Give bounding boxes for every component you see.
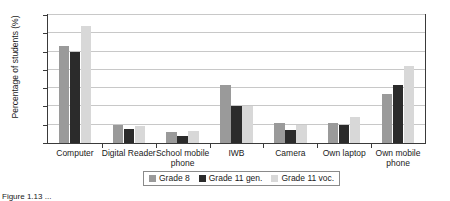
bar bbox=[166, 132, 177, 143]
bar-series-layer bbox=[48, 15, 425, 143]
legend-item: Grade 8 bbox=[149, 174, 190, 183]
bar bbox=[59, 46, 70, 143]
bar-group bbox=[156, 15, 210, 143]
bar bbox=[285, 130, 296, 143]
bar bbox=[70, 52, 81, 143]
y-tick-mark bbox=[43, 15, 47, 16]
y-tick-mark bbox=[43, 88, 47, 89]
bar bbox=[274, 123, 285, 143]
legend-label: Grade 11 gen. bbox=[209, 174, 263, 183]
y-tick-mark bbox=[43, 70, 47, 71]
bar bbox=[404, 66, 415, 143]
y-axis-label: Percentage of students (%) bbox=[10, 0, 20, 137]
bar-group bbox=[210, 15, 264, 143]
bar bbox=[382, 94, 393, 143]
legend-swatch-icon bbox=[149, 175, 156, 182]
y-tick-mark bbox=[43, 52, 47, 53]
bar bbox=[124, 129, 135, 143]
bar bbox=[296, 125, 307, 143]
x-category-label: Own mobile phone bbox=[363, 148, 433, 168]
legend-item: Grade 11 gen. bbox=[199, 174, 263, 183]
bar bbox=[328, 123, 339, 143]
figure-caption: Figure 1.13 ... bbox=[2, 192, 448, 201]
bar-group bbox=[263, 15, 317, 143]
bar-group bbox=[102, 15, 156, 143]
y-tick-mark bbox=[43, 143, 47, 144]
bar bbox=[393, 85, 404, 144]
legend-label: Grade 11 voc. bbox=[281, 174, 334, 183]
bar-group bbox=[371, 15, 425, 143]
legend-item: Grade 11 voc. bbox=[271, 174, 334, 183]
bar bbox=[188, 131, 199, 143]
legend-swatch-icon bbox=[271, 175, 278, 182]
bar bbox=[242, 106, 253, 143]
bar bbox=[220, 85, 231, 144]
bar bbox=[135, 126, 146, 143]
bar bbox=[177, 136, 188, 143]
bar bbox=[113, 125, 124, 143]
y-tick-mark bbox=[43, 106, 47, 107]
chart-figure: Percentage of students (%) 0102030405060… bbox=[0, 0, 450, 201]
bar bbox=[81, 26, 92, 143]
y-tick-mark bbox=[43, 33, 47, 34]
chart-legend: Grade 8Grade 11 gen.Grade 11 voc. bbox=[143, 171, 340, 186]
y-tick-mark bbox=[43, 125, 47, 126]
bar bbox=[231, 106, 242, 143]
bar bbox=[350, 117, 361, 143]
bar bbox=[339, 125, 350, 143]
legend-label: Grade 8 bbox=[159, 174, 190, 183]
legend-swatch-icon bbox=[199, 175, 206, 182]
bar-group bbox=[317, 15, 371, 143]
bar-group bbox=[48, 15, 102, 143]
